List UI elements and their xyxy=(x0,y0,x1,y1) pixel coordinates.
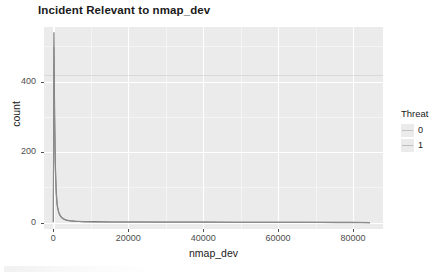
legend-entry-label: 0 xyxy=(418,124,423,137)
legend-entry-0[interactable]: 0 xyxy=(401,124,439,137)
x-tick-label: 40000 xyxy=(191,233,216,243)
x-axis-title: nmap_dev xyxy=(44,247,383,259)
x-tick-label: 0 xyxy=(51,233,56,243)
y-tick-mark xyxy=(41,82,44,83)
page-title: Incident Relevant to nmap_dev xyxy=(38,4,210,16)
legend: Threat 01 xyxy=(401,108,439,154)
x-tick-label: 60000 xyxy=(266,233,291,243)
x-tick-mark xyxy=(128,229,129,232)
legend-entry-1[interactable]: 1 xyxy=(401,139,439,152)
x-tick-label: 20000 xyxy=(116,233,141,243)
x-tick-mark xyxy=(53,229,54,232)
legend-line-swatch-icon xyxy=(401,139,414,152)
chart-figure: Incident Relevant to nmap_dev 0200400 02… xyxy=(0,0,439,276)
y-axis-title: count xyxy=(10,84,22,144)
data-series-layer xyxy=(44,27,383,229)
x-tick-mark xyxy=(353,229,354,232)
legend-line-swatch-icon xyxy=(401,124,414,137)
y-tick-label: 200 xyxy=(21,146,36,156)
page-edge-artifact xyxy=(4,266,154,272)
y-tick-label: 0 xyxy=(31,217,36,227)
y-tick-mark xyxy=(41,223,44,224)
legend-entries: 01 xyxy=(401,124,439,152)
x-tick-mark xyxy=(203,229,204,232)
legend-title: Threat xyxy=(401,108,439,119)
plot-panel xyxy=(44,27,383,229)
data-series-1 xyxy=(53,47,370,223)
x-tick-mark xyxy=(278,229,279,232)
y-tick-label: 400 xyxy=(21,76,36,86)
y-tick-mark xyxy=(41,152,44,153)
legend-entry-label: 1 xyxy=(418,139,423,152)
x-tick-label: 80000 xyxy=(341,233,366,243)
data-series-0 xyxy=(53,32,370,222)
